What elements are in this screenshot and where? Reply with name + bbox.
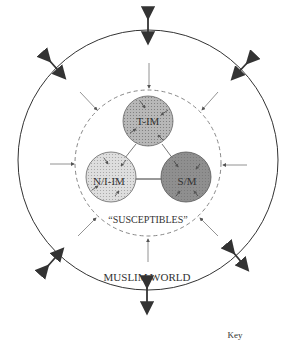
boundary-arrows (47, 17, 248, 312)
label-muslim-world: MUSLIM WORLD (104, 271, 191, 283)
inward-arrows (50, 63, 247, 262)
key-label: Key (228, 330, 243, 340)
label-t-im: T-IM (137, 115, 160, 127)
label-sm: S/M (178, 175, 197, 187)
label-ni-im: N/I-IM (93, 175, 125, 187)
diagram-canvas (0, 0, 292, 340)
label-susceptibles: “SUSCEPTIBLES” (108, 214, 187, 225)
